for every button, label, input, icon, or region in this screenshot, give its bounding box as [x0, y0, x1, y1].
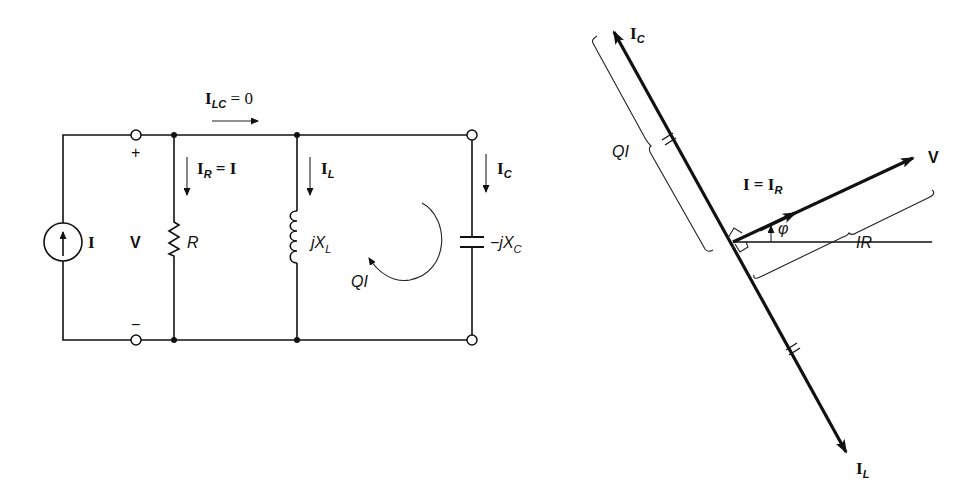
- plus-sign: +: [131, 144, 140, 161]
- terminal-top-left: [131, 130, 141, 140]
- node-dot: [294, 132, 300, 138]
- terminal-bottom-left: [131, 335, 141, 345]
- ir-label: IR = I: [197, 159, 237, 180]
- qi-brace: [592, 36, 713, 251]
- terminal-bottom-right: [467, 335, 477, 345]
- inductor-icon: [290, 211, 297, 263]
- terminal-top-right: [467, 130, 477, 140]
- ic-label: IC: [497, 159, 513, 180]
- qi-brace-label: QI: [612, 143, 629, 160]
- ir-brace-label: IR: [856, 234, 872, 251]
- wires: [63, 135, 472, 340]
- il-phasor: [733, 247, 846, 452]
- inductor-label: jXL: [309, 234, 331, 255]
- i-equals-ir-label: I = IR: [743, 175, 782, 196]
- right-angle-marker: [735, 242, 748, 252]
- circulating-current-arrow-icon: [369, 203, 442, 280]
- capacitor-label: −jXC: [490, 234, 522, 255]
- circuit-schematic: I V + − R jXL −jXC ILC = 0 IR = I IL IC …: [44, 89, 522, 345]
- node-dot: [171, 337, 177, 343]
- v-phasor-label: V: [928, 149, 939, 166]
- resistor-label: R: [187, 234, 199, 251]
- phasor-diagram: φ IC IL V I = IR QI IR: [592, 24, 939, 480]
- circulating-label: QI: [351, 273, 368, 290]
- phi-label: φ: [778, 220, 788, 237]
- capacitor-icon: [460, 237, 484, 247]
- node-dot: [171, 132, 177, 138]
- ilc-label: ILC = 0: [205, 89, 253, 110]
- source-label: I: [88, 233, 95, 252]
- node-dot: [294, 337, 300, 343]
- current-source-icon: [44, 223, 82, 261]
- voltage-label: V: [130, 234, 141, 251]
- minus-sign: −: [131, 316, 140, 333]
- il-phasor-label: IL: [856, 459, 870, 480]
- il-label: IL: [321, 159, 335, 180]
- right-angle-marker: [728, 228, 742, 238]
- resistor-icon: [169, 219, 179, 259]
- parallel-rlc-diagram: I V + − R jXL −jXC ILC = 0 IR = I IL IC …: [0, 0, 973, 501]
- ic-phasor-label: IC: [630, 24, 646, 45]
